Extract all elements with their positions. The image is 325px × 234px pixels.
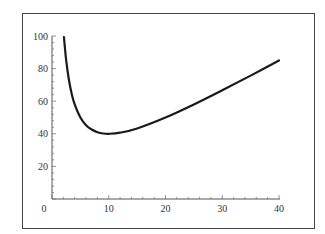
y-tick-label: 40 bbox=[38, 128, 48, 139]
x-tick-label: 10 bbox=[104, 203, 114, 214]
data-curve bbox=[64, 37, 279, 134]
x-tick-label: 20 bbox=[161, 203, 171, 214]
y-tick-label: 60 bbox=[38, 96, 48, 107]
y-tick-label: 100 bbox=[33, 31, 48, 42]
x-tick-label: 40 bbox=[274, 203, 284, 214]
x-tick-label: 0 bbox=[42, 203, 47, 214]
line-chart: 01020304020406080100 bbox=[0, 0, 325, 234]
tick-labels: 01020304020406080100 bbox=[33, 31, 284, 215]
x-tick-label: 30 bbox=[217, 203, 227, 214]
y-tick-label: 80 bbox=[38, 63, 48, 74]
y-tick-label: 20 bbox=[38, 161, 48, 172]
